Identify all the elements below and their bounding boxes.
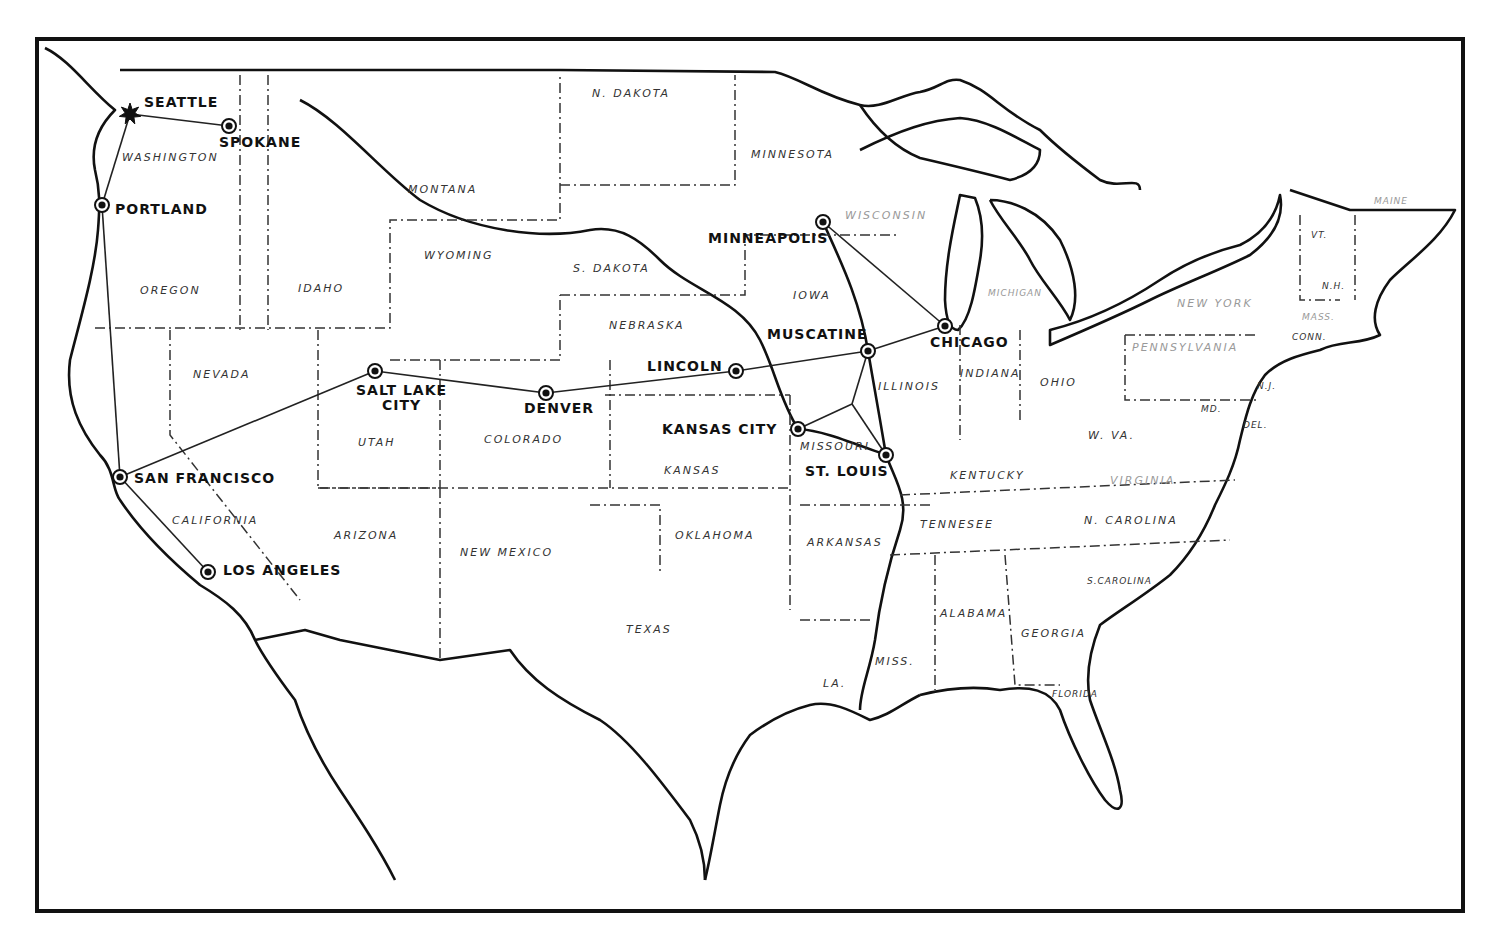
state-label-miss: MISS.	[875, 655, 915, 668]
state-label-n-dakota: N. DAKOTA	[592, 87, 670, 100]
state-label-wyoming: WYOMING	[424, 249, 494, 262]
route-segment-muscatine-junction	[852, 351, 868, 404]
city-label-salt-lake-city: SALT LAKECITY	[356, 383, 447, 413]
state-label-kentucky: KENTUCKY	[950, 469, 1025, 482]
route-segment-junction-kansas_city	[798, 404, 852, 429]
state-label-california: CALIFORNIA	[172, 514, 258, 527]
route-segment-lincoln-muscatine	[736, 351, 868, 371]
circle-dot-icon	[861, 344, 875, 358]
circle-dot-icon	[539, 386, 553, 400]
state-label-arkansas: ARKANSAS	[807, 536, 883, 549]
state-boundaries	[95, 75, 1355, 690]
state-label-indiana: INDIANA	[960, 367, 1020, 380]
state-label-michigan: MICHIGAN	[988, 288, 1042, 298]
state-label-mass: MASS.	[1302, 312, 1335, 322]
circle-dot-icon	[938, 319, 952, 333]
state-label-utah: UTAH	[358, 436, 396, 449]
circle-dot-icon	[95, 198, 109, 212]
city-label-san-francisco: SAN FRANCISCO	[134, 471, 275, 486]
state-label-n-carolina: N. CAROLINA	[1084, 514, 1178, 527]
star-icon	[119, 103, 140, 124]
city-label-los-angeles: LOS ANGELES	[223, 563, 341, 578]
state-label-pennsylvania: PENNSYLVANIA	[1132, 341, 1238, 354]
state-label-la: LA.	[823, 677, 846, 690]
lake-michigan	[945, 195, 982, 330]
state-label-s-carolina: S.CAROLINA	[1087, 576, 1152, 586]
state-label-conn: CONN.	[1292, 332, 1327, 342]
city-label-muscatine: MUSCATINE	[767, 327, 867, 342]
state-label-florida: FLORIDA	[1052, 689, 1098, 699]
state-label-s-dakota: S. DAKOTA	[573, 262, 650, 275]
state-label-vt: VT.	[1311, 230, 1327, 240]
state-label-tennesee: TENNESEE	[920, 518, 994, 531]
city-label-kansas-city: KANSAS CITY	[662, 422, 777, 437]
city-label-chicago: CHICAGO	[930, 335, 1009, 350]
route-lines	[102, 114, 945, 572]
state-label-n-j: N.J.	[1257, 381, 1276, 391]
state-label-idaho: IDAHO	[298, 282, 344, 295]
state-label-arizona: ARIZONA	[334, 529, 398, 542]
state-label-illinois: ILLINOIS	[878, 380, 940, 393]
city-label-st-louis: ST. LOUIS	[805, 464, 889, 479]
state-label-colorado: COLORADO	[484, 433, 563, 446]
circle-dot-icon	[368, 364, 382, 378]
state-label-oregon: OREGON	[140, 284, 201, 297]
state-label-new-mexico: NEW MEXICO	[460, 546, 553, 559]
pacific-coastline	[45, 48, 395, 880]
state-label-wisconsin: WISCONSIN	[845, 209, 927, 222]
state-label-maine: MAINE	[1374, 196, 1408, 206]
state-label-georgia: GEORGIA	[1021, 627, 1086, 640]
lake-superior	[860, 105, 1040, 180]
state-label-del: DEL.	[1243, 420, 1268, 430]
lake-huron	[990, 200, 1075, 320]
state-label-nebraska: NEBRASKA	[609, 319, 685, 332]
route-segment-portland-san_francisco	[102, 205, 120, 477]
gulf-coastline	[705, 695, 920, 880]
state-label-minnesota: MINNESOTA	[751, 148, 834, 161]
state-label-n-h: N.H.	[1322, 281, 1345, 291]
state-label-iowa: IOWA	[793, 289, 831, 302]
route-segment-san_francisco-salt_lake_city	[120, 371, 375, 477]
state-label-ohio: OHIO	[1040, 376, 1077, 389]
state-label-oklahoma: OKLAHOMA	[675, 529, 754, 542]
city-label-spokane: SPOKANE	[219, 135, 301, 150]
city-label-denver: DENVER	[524, 401, 594, 416]
state-label-missouri: MISSOURI	[800, 440, 870, 453]
state-label-alabama: ALABAMA	[940, 607, 1007, 620]
state-label-virginia: VIRGINIA	[1110, 474, 1175, 487]
circle-dot-icon	[729, 364, 743, 378]
route-segment-seattle-spokane	[130, 114, 229, 126]
circle-dot-icon	[222, 119, 236, 133]
city-label-seattle: SEATTLE	[144, 95, 218, 110]
city-label-minneapolis: MINNEAPOLIS	[708, 231, 828, 246]
city-label-lincoln: LINCOLN	[647, 359, 723, 374]
state-label-w-va: W. VA.	[1088, 429, 1135, 442]
circle-dot-icon	[791, 422, 805, 436]
state-label-nevada: NEVADA	[193, 368, 250, 381]
state-label-washington: WASHINGTON	[122, 151, 219, 164]
circle-dot-icon	[201, 565, 215, 579]
route-segment-denver-lincoln	[546, 371, 736, 393]
mexico-border	[255, 630, 705, 880]
state-label-texas: TEXAS	[626, 623, 672, 636]
country-outline	[45, 48, 1455, 880]
lake-erie-ontario	[1050, 195, 1281, 345]
circle-dot-icon	[816, 215, 830, 229]
state-label-new-york: NEW YORK	[1177, 297, 1253, 310]
route-segment-minneapolis-chicago	[823, 222, 945, 326]
city-label-portland: PORTLAND	[115, 202, 208, 217]
state-label-kansas: KANSAS	[664, 464, 720, 477]
state-label-md: MD.	[1201, 404, 1222, 414]
circle-dot-icon	[113, 470, 127, 484]
state-label-montana: MONTANA	[408, 183, 477, 196]
circle-dot-icon	[879, 448, 893, 462]
